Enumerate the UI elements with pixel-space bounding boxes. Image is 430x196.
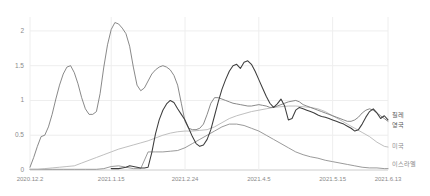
series-label-0: 칠레 bbox=[392, 110, 404, 119]
y-axis-tick-label: 2 bbox=[6, 27, 24, 34]
x-axis-tick-label: 2021.6.13 bbox=[375, 176, 402, 182]
series-label-1: 영국 bbox=[392, 120, 404, 129]
series-line-1 bbox=[30, 23, 388, 168]
series-label-2: 미국 bbox=[392, 141, 404, 150]
x-axis-tick-label: 2021.4.5 bbox=[247, 176, 270, 182]
series-label-3: 이스라엘 bbox=[392, 159, 416, 168]
y-axis-tick-label: 0.5 bbox=[6, 131, 24, 138]
x-axis-tick-label: 2021.5.15 bbox=[319, 176, 346, 182]
chart-canvas bbox=[0, 0, 430, 196]
line-chart: 00.511.522020.12.22021.1.152021.2.242021… bbox=[0, 0, 430, 196]
y-axis-tick-label: 0 bbox=[6, 166, 24, 173]
x-axis-tick-label: 2020.12.2 bbox=[17, 176, 44, 182]
y-axis-tick-label: 1.5 bbox=[6, 62, 24, 69]
y-axis-tick-label: 1 bbox=[6, 96, 24, 103]
series-line-2 bbox=[30, 106, 388, 169]
x-axis-tick-label: 2021.2.24 bbox=[172, 176, 199, 182]
x-axis-tick-label: 2021.1.15 bbox=[98, 176, 125, 182]
series-line-0 bbox=[111, 61, 388, 169]
